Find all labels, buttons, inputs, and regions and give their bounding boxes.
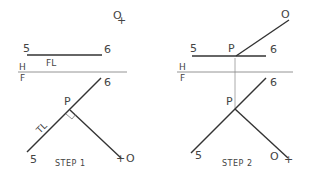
label-p: P	[64, 95, 71, 108]
label-p: P	[228, 42, 235, 55]
label-f: F	[180, 73, 185, 83]
label-o: O	[270, 150, 279, 163]
label-5: 5	[195, 149, 202, 162]
label-6: 6	[104, 43, 111, 56]
line-p-o-front	[235, 109, 288, 158]
label-f: F	[20, 73, 25, 83]
point-o-marker: +	[284, 153, 293, 166]
step1-title: STEP 1	[55, 159, 85, 168]
label-5: 5	[30, 153, 37, 166]
label-6: 6	[270, 76, 277, 89]
label-o: O	[126, 152, 135, 165]
perpendicular-p-o	[70, 110, 121, 158]
line-p-o-top	[236, 20, 289, 56]
step2-front-view: 6 P 5 O +	[191, 76, 293, 166]
step1-panel: 5 6 FL O + H F 6 P 5 TL + O STEP 1	[18, 9, 135, 168]
label-5: 5	[190, 42, 197, 55]
line-5-6-front	[27, 78, 101, 152]
label-5: 5	[23, 42, 30, 55]
label-h: H	[179, 62, 186, 72]
step2-panel: 5 P 6 O H F 6 P 5 O + STEP 2	[177, 8, 293, 168]
line-5-6-front	[191, 78, 266, 153]
label-fl: FL	[46, 58, 56, 68]
label-o: O	[281, 8, 290, 21]
label-6: 6	[104, 76, 111, 89]
step2-top-view: 5 P 6 O	[190, 8, 290, 56]
step1-front-view: 6 P 5 TL + O	[27, 76, 135, 166]
label-p: P	[226, 95, 233, 108]
point-o-marker: +	[116, 152, 125, 165]
step2-title: STEP 2	[222, 159, 252, 168]
diagram-canvas: 5 6 FL O + H F 6 P 5 TL + O STEP 1 5	[0, 0, 310, 175]
step1-top-view: 5 6 FL O +	[23, 9, 126, 68]
label-h: H	[19, 62, 26, 72]
label-tl: TL	[34, 121, 49, 136]
point-o-marker: +	[117, 14, 126, 27]
label-6: 6	[270, 43, 277, 56]
